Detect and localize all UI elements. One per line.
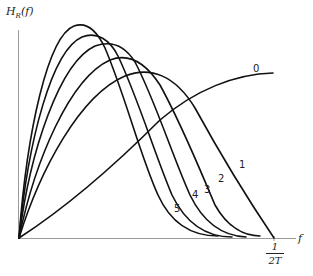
curve-1 bbox=[19, 72, 274, 238]
curve-label-2: 2 bbox=[218, 173, 224, 184]
curve-label-0: 0 bbox=[253, 63, 259, 74]
curves bbox=[19, 25, 274, 238]
curve-0 bbox=[19, 73, 273, 238]
curve-label-1: 1 bbox=[239, 159, 245, 170]
x-tick-numerator: 1 bbox=[266, 242, 284, 254]
y-axis-label: HR(f) bbox=[6, 6, 34, 20]
curve-label-3: 3 bbox=[204, 184, 210, 195]
x-tick-label: 1 2T bbox=[266, 242, 284, 266]
curve-label-4: 4 bbox=[192, 189, 198, 200]
chart-canvas: 0 1 2 3 4 5 bbox=[0, 0, 313, 276]
x-axis-label: f bbox=[298, 233, 302, 244]
curve-label-5: 5 bbox=[174, 203, 180, 214]
x-tick-denominator: 2T bbox=[266, 254, 284, 266]
